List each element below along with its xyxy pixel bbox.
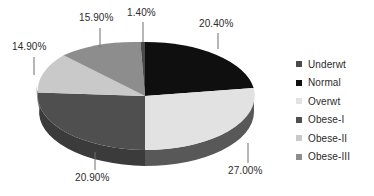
legend-item-underwt[interactable]: Underwt — [296, 55, 374, 74]
legend-label: Obese-I — [308, 114, 344, 125]
legend-label: Overwt — [308, 96, 340, 107]
legend-swatch-icon — [296, 135, 302, 141]
legend-swatch-icon — [296, 154, 302, 160]
legend-swatch-icon — [296, 98, 302, 104]
legend-label: Obese-II — [308, 133, 347, 144]
legend-swatch-icon — [296, 117, 302, 123]
pie-slice-overwt — [145, 88, 255, 150]
legend-item-obese2[interactable]: Obese-II — [296, 129, 374, 148]
legend-item-obese1[interactable]: Obese-I — [296, 111, 374, 130]
pie-label-overwt: 27.00% — [228, 165, 263, 176]
pie-chart-figure: 1.40% 20.40% 27.00% 20.90% 14.90% 15.90%… — [0, 0, 374, 196]
pie-slice-obese1 — [38, 93, 145, 150]
pie-top-face — [38, 42, 255, 150]
pie-label-normal: 20.40% — [199, 18, 234, 29]
legend-label: Normal — [308, 77, 341, 88]
pie-label-obese2: 14.90% — [12, 41, 47, 52]
legend-swatch-icon — [296, 61, 302, 67]
legend-item-overwt[interactable]: Overwt — [296, 92, 374, 111]
legend-item-normal[interactable]: Normal — [296, 74, 374, 93]
pie-label-obese3: 15.90% — [79, 12, 114, 23]
legend-label: Underwt — [308, 59, 346, 70]
chart-legend: Underwt Normal Overwt Obese-I Obese-II O… — [296, 55, 374, 166]
pie-label-underwt: 1.40% — [127, 7, 156, 18]
pie-plot-area: 1.40% 20.40% 27.00% 20.90% 14.90% 15.90% — [0, 0, 290, 196]
legend-swatch-icon — [296, 80, 302, 86]
legend-label: Obese-III — [308, 151, 350, 162]
pie-slice-normal — [145, 42, 254, 96]
pie-label-obese1: 20.90% — [75, 172, 110, 183]
legend-item-obese3[interactable]: Obese-III — [296, 148, 374, 167]
